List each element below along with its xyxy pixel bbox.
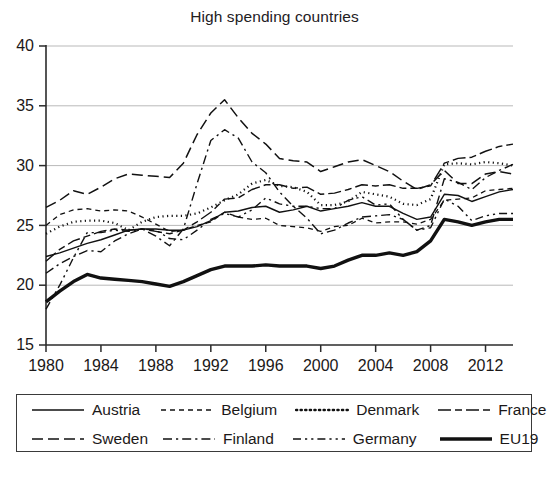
legend-line-swatch (439, 432, 493, 446)
legend-label: Finland (223, 430, 274, 448)
chart-figure: High spending countries 152025303540 198… (0, 0, 549, 498)
x-axis-ticks (46, 345, 486, 352)
legend-line-swatch (160, 403, 214, 417)
data-series-group (46, 100, 513, 309)
x-tick-label: 2000 (303, 357, 339, 374)
y-tick-label: 35 (16, 97, 34, 114)
line-chart-plot: 152025303540 198019841988199219962000200… (0, 0, 549, 392)
legend-line-swatch (295, 403, 349, 417)
legend-item-denmark[interactable]: Denmark (295, 401, 437, 419)
legend-line-swatch (31, 403, 85, 417)
legend-label: Germany (353, 430, 417, 448)
legend-item-finland[interactable]: Finland (162, 430, 292, 448)
y-tick-label: 30 (16, 157, 34, 174)
legend-label: Belgium (221, 401, 277, 419)
legend-line-swatch (437, 403, 491, 417)
legend-item-belgium[interactable]: Belgium (160, 401, 295, 419)
x-tick-label: 2012 (468, 357, 504, 374)
series-line-sweden (46, 100, 513, 208)
x-tick-label: 1996 (248, 357, 284, 374)
y-tick-label: 15 (16, 336, 34, 353)
legend-item-france[interactable]: France (437, 401, 549, 419)
x-tick-label: 1988 (138, 357, 174, 374)
legend-label: EU19 (500, 430, 539, 448)
legend-item-germany[interactable]: Germany (292, 430, 439, 448)
x-tick-label: 1984 (83, 357, 119, 374)
series-line-germany (46, 197, 513, 309)
y-tick-label: 25 (16, 217, 34, 234)
x-tick-label: 2008 (413, 357, 449, 374)
chart-legend: AustriaBelgiumDenmarkFranceSwedenFinland… (16, 394, 532, 452)
x-tick-label: 1992 (193, 357, 229, 374)
x-tick-label: 2004 (358, 357, 394, 374)
legend-label: France (498, 401, 546, 419)
legend-label: Denmark (356, 401, 419, 419)
y-tick-label: 20 (16, 276, 34, 293)
x-axis-tick-labels: 198019841988199219962000200420082012 (28, 357, 503, 374)
legend-item-eu19[interactable]: EU19 (439, 430, 549, 448)
legend-label: Sweden (92, 430, 148, 448)
legend-item-sweden[interactable]: Sweden (31, 430, 162, 448)
legend-line-swatch (162, 432, 216, 446)
legend-row: SwedenFinlandGermanyEU19 (17, 424, 531, 453)
legend-label: Austria (92, 401, 140, 419)
y-tick-label: 40 (16, 37, 34, 54)
y-axis-tick-labels: 152025303540 (16, 37, 34, 353)
x-tick-label: 1980 (28, 357, 64, 374)
legend-row: AustriaBelgiumDenmarkFrance (17, 395, 531, 424)
y-axis-ticks (39, 46, 46, 345)
legend-line-swatch (31, 432, 85, 446)
series-line-eu19 (46, 219, 513, 302)
legend-item-austria[interactable]: Austria (31, 401, 160, 419)
legend-line-swatch (292, 432, 346, 446)
